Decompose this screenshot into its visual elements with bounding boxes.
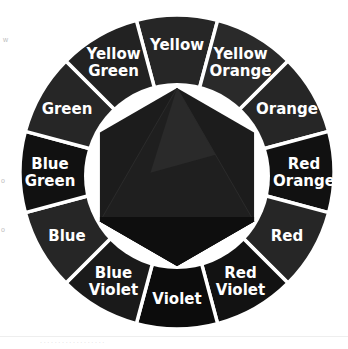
color-wheel: YellowYellowOrangeOrangeRedOrangeRedRedV… xyxy=(0,0,348,349)
caption-text: · · · · · · · · · · · · · · · · · · xyxy=(40,339,320,345)
margin-note-1: w xyxy=(3,36,8,43)
segment-label: Orange xyxy=(256,100,318,118)
figure-caption: · · · · · · · · · · · · · · · · · · xyxy=(0,336,348,349)
caption-divider xyxy=(0,336,348,337)
segment-label: Blue xyxy=(48,227,85,245)
segment-label: Red xyxy=(271,227,303,245)
segment-label: Violet xyxy=(152,290,201,308)
segment-label: BlueViolet xyxy=(89,264,138,299)
margin-note-2: o xyxy=(1,177,5,184)
segment-label: BlueGreen xyxy=(25,155,76,190)
segment-label: YellowOrange xyxy=(210,45,272,80)
segment-label: Green xyxy=(42,100,93,118)
segment-label: Yellow xyxy=(149,36,204,54)
segment-label: YellowGreen xyxy=(85,45,140,80)
margin-note-3: o xyxy=(1,226,5,233)
color-wheel-figure: YellowYellowOrangeOrangeRedOrangeRedRedV… xyxy=(0,0,348,349)
